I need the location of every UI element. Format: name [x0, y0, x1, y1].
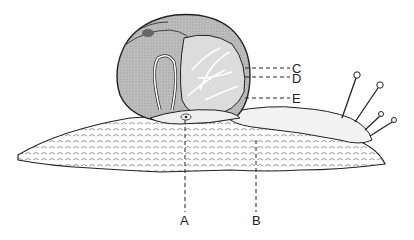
- label-d: D: [292, 72, 301, 85]
- label-b: B: [252, 214, 261, 227]
- snail-diagram: [0, 0, 414, 240]
- label-e: E: [292, 92, 301, 105]
- label-a: A: [180, 214, 189, 227]
- snail-shell: [117, 15, 250, 124]
